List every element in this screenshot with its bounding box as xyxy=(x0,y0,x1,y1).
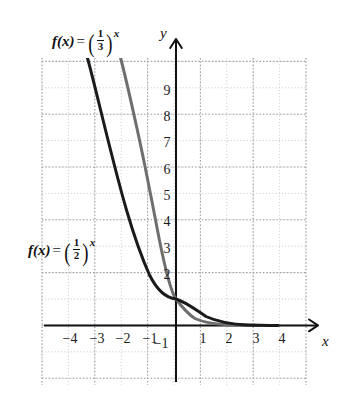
fn-arg-2: (x) xyxy=(33,242,51,258)
exponential-functions-graph: f(x)=(13)x y x f(x)=(12)x 98765432−1 −4−… xyxy=(0,0,350,405)
x-tick-label: −2 xyxy=(113,331,133,347)
x-tick-label: −3 xyxy=(87,331,107,347)
x-tick-label: 3 xyxy=(246,331,266,347)
fraction-denominator-2: 2 xyxy=(73,250,81,262)
x-tick-label: 4 xyxy=(272,331,292,347)
x-tick-label: 1 xyxy=(193,331,213,347)
y-axis-label: y xyxy=(160,25,167,42)
y-tick-label: 9 xyxy=(158,83,176,99)
x-tick-label: −4 xyxy=(60,331,80,347)
equals-2: = xyxy=(51,242,63,258)
y-tick-label: 3 xyxy=(158,241,176,257)
fraction-1: 13 xyxy=(96,28,106,52)
equals-1: = xyxy=(75,33,87,49)
y-tick-label: 2 xyxy=(158,267,176,283)
y-tick-label: 8 xyxy=(158,109,176,125)
exponent-2: x xyxy=(90,236,96,248)
x-axis-label: x xyxy=(322,333,329,350)
y-tick-label: 6 xyxy=(158,162,176,178)
annotation-one-half: f(x)=(12)x xyxy=(28,237,95,262)
fraction-2: 12 xyxy=(72,237,82,261)
x-tick-label: −1 xyxy=(140,331,160,347)
x-tick-label: 2 xyxy=(219,331,239,347)
fn-arg-1: (x) xyxy=(57,33,75,49)
fraction-denominator-1: 3 xyxy=(97,41,105,53)
y-tick-label: 5 xyxy=(158,188,176,204)
y-tick-label: 7 xyxy=(158,135,176,151)
y-tick-label: 4 xyxy=(158,214,176,230)
annotation-one-third: f(x)=(13)x xyxy=(52,28,119,53)
exponent-1: x xyxy=(114,27,120,39)
